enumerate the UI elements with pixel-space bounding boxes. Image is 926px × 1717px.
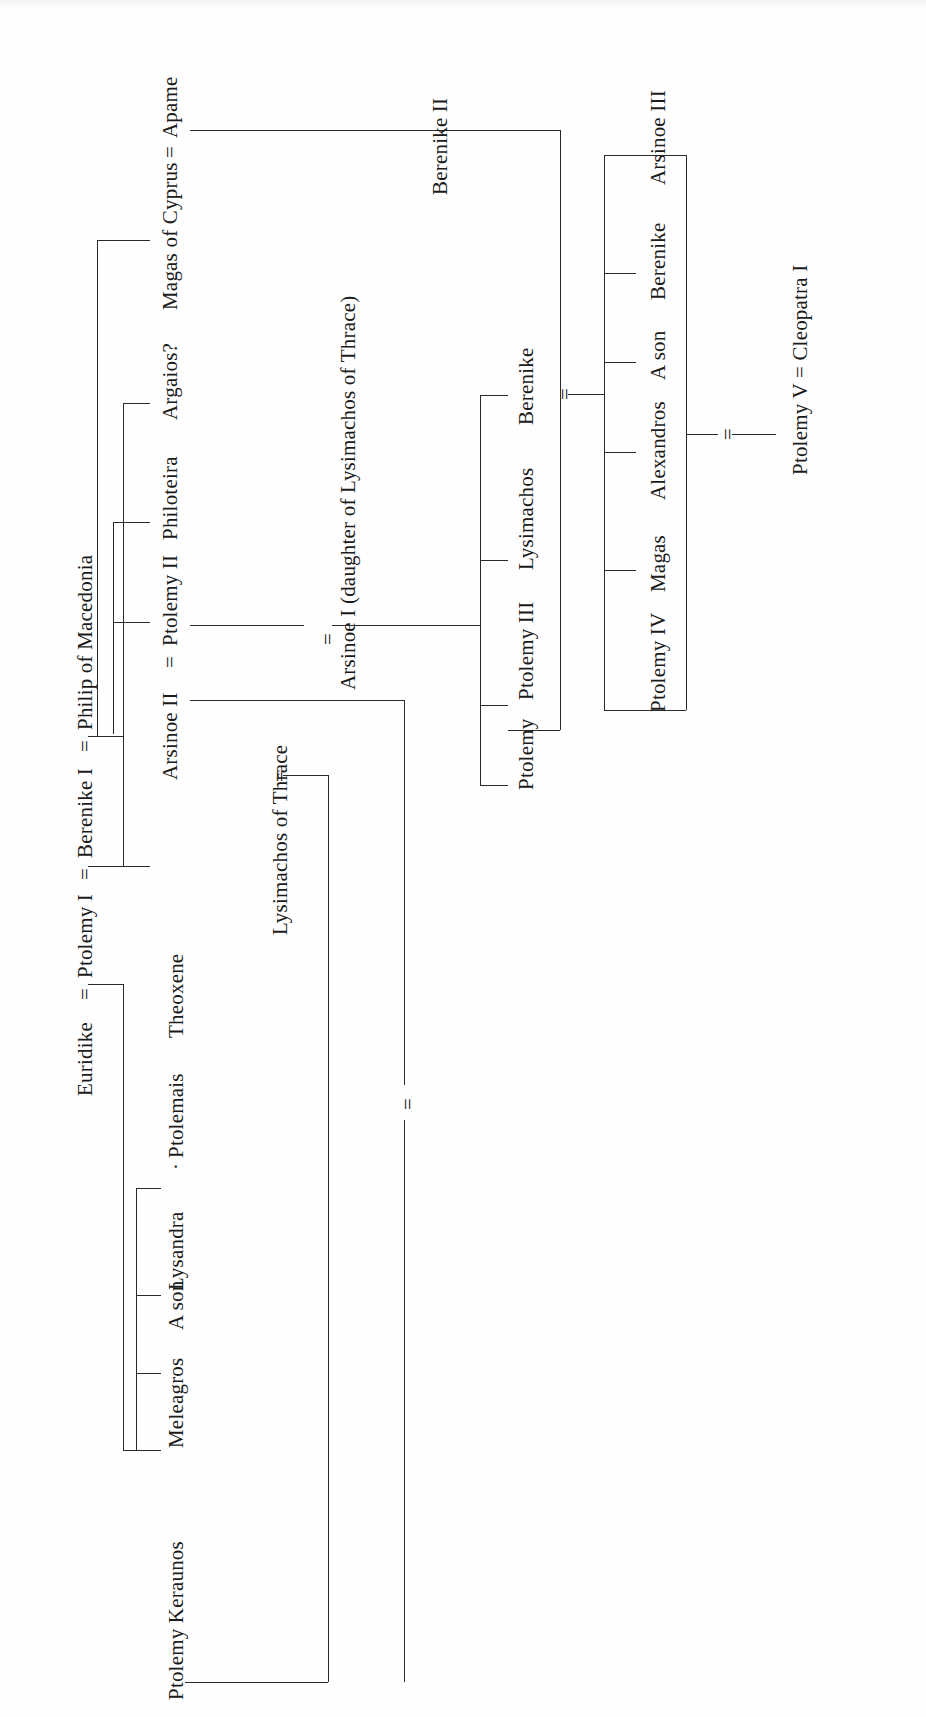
node-ptolemy-v-cleopatra-i: Ptolemy V = Cleopatra I [790,265,811,475]
line-euridike-stub [88,984,124,985]
line-lysimachos-stub [283,775,328,776]
node-arsinoe-i: Arsinoe I (daughter of Lysimachos of Thr… [338,296,359,690]
node-apame: Apame [160,76,181,138]
node-ptolemy-keraunos: Ptolemy Keraunos [166,1541,187,1700]
equals-arsinoeii-ptolemyii: = [160,656,181,668]
line-gen5-stub [732,434,776,435]
equals-berenikei-philip: = [75,740,96,752]
line-euridike-child-theoxene [136,1188,161,1189]
equals-ptolemyi-berenikei: = [75,868,96,880]
node-magas-of-cyprus: Magas of Cyprus [160,162,181,310]
spine-lysimachos-down [328,775,329,1682]
line-lysimachos-to-keraunos-branch [185,1682,328,1683]
node-a-son-2: A son [648,331,669,380]
line-child-alexandros [604,452,636,453]
family-tree-diagram: Euridike = Ptolemy I = Berenike I = Phil… [0,0,926,1717]
node-middot: · [166,1163,187,1170]
line-magas-apame-descent [190,130,560,131]
node-ptolemy-ii: Ptolemy II [160,555,181,646]
spine-arsinoeii-to-equals [404,700,405,1085]
spine-euridike-children-upper [136,1188,137,1450]
line-child-berenike-a [480,395,508,396]
line-berenikei-child-arsinoeii [123,866,150,867]
node-berenike-i: Berenike I [75,768,96,858]
spine-gen4-children [604,155,605,710]
line-arsinoeii-to-lysimachos [190,700,404,701]
spine-berenikei-children [123,403,124,866]
node-ptolemy-iii: Ptolemy III [516,602,537,700]
line-euridike-child-lysandra [136,1295,161,1296]
line-child-ptolemy-iv [604,710,636,711]
line-child-lysimachos [480,560,508,561]
spine-philip-children [97,240,98,736]
spine-berenikei-children-mid [113,522,114,734]
node-alexandros: Alexandros [648,401,669,500]
line-child-ptolemyiii [480,705,508,706]
node-argaios: Argaios? [160,343,181,420]
node-berenike-b: Berenike [648,223,669,300]
line-philip-stub [88,736,124,737]
equals-euridike-ptolemyi: = [75,988,96,1000]
line-berenikei-child-philoteira [113,522,150,523]
line-marriage-to-gen4-spine [568,394,604,395]
node-arsinoe-ii: Arsinoe II [160,692,181,780]
spine-berenike-ii-down [560,130,561,395]
node-philip-of-macedonia: Philip of Macedonia [75,555,96,730]
node-ptolemy-i: Ptolemy I [75,894,96,978]
scan-edge-artifact [0,0,926,9]
node-theoxene: Theoxene [166,954,187,1038]
line-euridike-child-ason [136,1373,161,1374]
equals-magas-apame: = [160,146,181,158]
line-child-arsinoe-iii [604,155,636,156]
line-philip-child-magas [97,240,150,241]
node-meleagros: Meleagros [166,1358,187,1448]
node-ptolemais: Ptolemais [166,1073,187,1158]
line-ptolemyiii-to-marriage [508,730,560,731]
spine-ptolemyiv-arsinoeiii [686,155,687,710]
line-child-magas [604,570,636,571]
node-euridike: Euridike [75,1022,96,1096]
line-ptolemyii-to-equals [190,625,304,626]
spine-euridike-children [123,984,124,1450]
line-arsinoeiii-to-marriage [636,155,686,156]
spine-ptolemyiii-berenikeii [560,395,561,730]
equals-lysimachos-arsinoeii: = [398,1098,419,1110]
node-berenike-ii: Berenike II [430,98,451,195]
node-arsinoe-iii: Arsinoe III [648,90,669,185]
node-ptolemy-iv: Ptolemy IV [648,613,669,712]
line-berenikei-stub [88,866,124,867]
line-child-berenike-b [604,273,636,274]
line-ptolemyiv-to-marriage [636,710,686,711]
node-lysandra: Lysandra [166,1211,187,1290]
line-child-a-son-2 [604,362,636,363]
line-equals-to-children-spine [332,625,480,626]
line-child-ptolemy [480,785,508,786]
node-berenike-a: Berenike [516,348,537,425]
node-lysimachos: Lysimachos [516,468,537,570]
spine-ptolemyii-arsinoei-children [480,395,481,785]
line-euridike-child-meleagros [136,1450,161,1451]
node-magas: Magas [648,535,669,592]
line-marriage-to-gen5 [686,434,718,435]
line-berenikei-child-argaios [123,403,150,404]
node-philoteira: Philoteira [160,456,181,540]
spine-lysimachos-marriage-down [404,1120,405,1682]
line-berenikei-child-ptolemyii [113,622,150,623]
